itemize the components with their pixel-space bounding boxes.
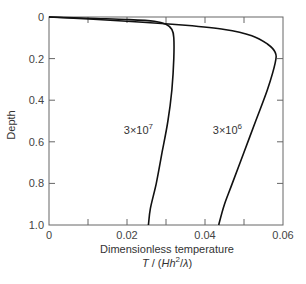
- curve-3e6: [49, 17, 276, 225]
- x-axis-title: Dimensionless temperature: [100, 243, 234, 255]
- y-tick-label: 1.0: [29, 219, 44, 231]
- curve-labels: 3×1073×106: [124, 122, 243, 136]
- y-tick-label: 0.8: [29, 177, 44, 189]
- x-axis-ticks: 00.020.040.06: [46, 17, 294, 241]
- x-tick-label: 0: [46, 229, 52, 241]
- y-axis-ticks: 00.20.40.60.81.0: [29, 11, 283, 231]
- curve-label-3e6: 3×106: [213, 122, 243, 136]
- curve-3e7: [49, 17, 174, 225]
- y-tick-label: 0.4: [29, 94, 44, 106]
- y-tick-label: 0: [38, 11, 44, 23]
- y-tick-label: 0.2: [29, 53, 44, 65]
- x-axis-formula: T / (Hh2/λ): [142, 255, 192, 269]
- x-tick-label: 0.02: [116, 229, 137, 241]
- depth-temperature-chart: 00.020.040.06 00.20.40.60.81.0 3×1073×10…: [0, 0, 306, 284]
- y-axis-title: Depth: [5, 110, 17, 139]
- y-tick-label: 0.6: [29, 136, 44, 148]
- plot-frame: [49, 17, 283, 225]
- x-tick-label: 0.06: [272, 229, 293, 241]
- curves: [49, 17, 276, 225]
- x-tick-label: 0.04: [194, 229, 215, 241]
- curve-label-3e7: 3×107: [124, 122, 154, 136]
